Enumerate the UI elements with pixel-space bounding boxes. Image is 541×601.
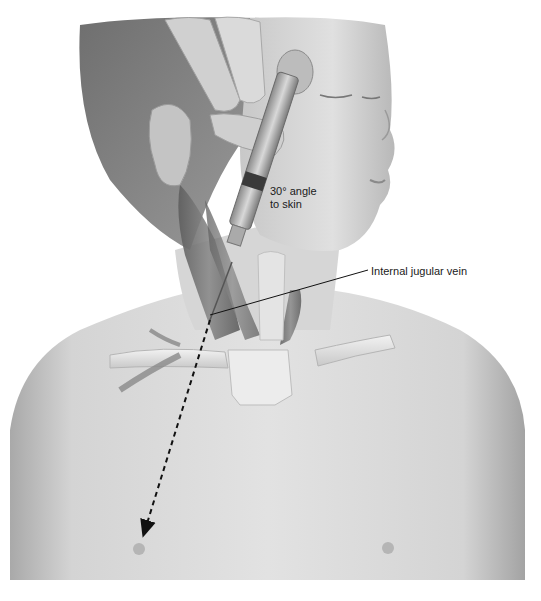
manubrium xyxy=(228,350,292,405)
nipple-left xyxy=(133,543,145,555)
trachea xyxy=(258,252,285,341)
nipple-right xyxy=(382,542,394,554)
angle-label-line1: 30° angle xyxy=(270,185,330,198)
anatomy-drawing xyxy=(0,0,541,601)
vein-label: Internal jugular vein xyxy=(371,265,467,278)
angle-label: 30° angle to skin xyxy=(270,185,330,211)
illustration: 30° angle to skin Internal jugular vein xyxy=(0,0,541,601)
angle-label-line2: to skin xyxy=(270,198,330,211)
